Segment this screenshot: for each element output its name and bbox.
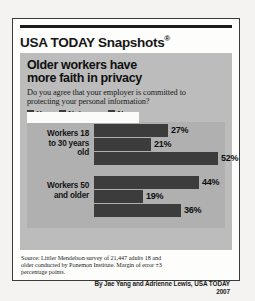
bar-row-no: 52% [94,152,221,165]
category-label-line-2: to 30 years [27,139,89,149]
headline-line-2: more faith in privacy [27,72,225,86]
card-inner: USA TODAY Snapshots® Older workers have … [20,25,232,275]
masthead-title: USA TODAY Snapshots® [20,31,232,53]
source-note: Source: Littler Mendelson survey of 21,4… [20,250,232,275]
category-label-line-1: Workers 50 [27,181,89,191]
registered-mark-icon: ® [164,34,170,43]
bar-row-not-sure: 19% [94,190,221,203]
bar-row-yes: 44% [94,176,221,189]
source-line-1: Source: Littler Mendelson survey of 21,4… [21,254,224,261]
bar-value-no: 36% [184,205,201,215]
masthead-brand: USA TODAY Snapshots [20,35,164,50]
category-label-line-3: old [27,148,89,158]
source-line-2: older conducted by Ponemon Institute. Ma… [21,261,224,268]
bar-row-yes: 27% [94,124,221,137]
category-label-workers-50-plus: Workers 50 and older [27,181,89,200]
byline: By Jae Yang and Adrienne Lewis, USA TODA… [20,275,232,296]
category-label-line-2: and older [27,191,89,201]
snapshot-card: USA TODAY Snapshots® Older workers have … [12,18,240,281]
bars-workers-50-plus: 44% 19% 36% [94,176,221,218]
content-panel: Older workers have more faith in privacy… [20,53,232,250]
bar-yes [94,176,199,189]
category-label-line-1: Workers 18 [27,129,89,139]
bar-value-not-sure: 21% [154,139,171,149]
byline-credit: By Jae Yang and Adrienne Lewis, USA TODA… [20,280,230,288]
source-line-3: percentage points. [21,268,224,275]
bar-group-workers-50-plus: Workers 50 and older 44% 19% [27,174,225,222]
bar-value-not-sure: 19% [146,191,163,201]
masthead-rule [20,25,232,28]
bar-no [94,204,181,217]
question-line-1: Do you agree that your employer is commi… [27,88,225,97]
bar-group-workers-18-30: Workers 18 to 30 years old 27% 21% [27,122,225,170]
bar-no [94,152,218,165]
bars-workers-18-30: 27% 21% 52% [94,124,221,166]
byline-year: 2007 [20,288,230,296]
page-title: Older workers have more faith in privacy [27,59,225,86]
survey-question: Do you agree that your employer is commi… [27,88,225,107]
bar-not-sure [94,138,151,151]
headline-line-1: Older workers have [27,59,225,73]
bar-row-not-sure: 21% [94,138,221,151]
category-label-workers-18-30: Workers 18 to 30 years old [27,129,89,158]
question-line-2: protecting your personal information? [27,97,225,106]
bar-yes [94,124,168,137]
chart-plot-area: Workers 18 to 30 years old 27% 21% [27,122,225,228]
bar-value-yes: 27% [171,125,188,135]
bar-row-no: 36% [94,204,221,217]
bar-value-yes: 44% [202,177,219,187]
bar-value-no: 52% [221,153,238,163]
bar-not-sure [94,190,143,203]
